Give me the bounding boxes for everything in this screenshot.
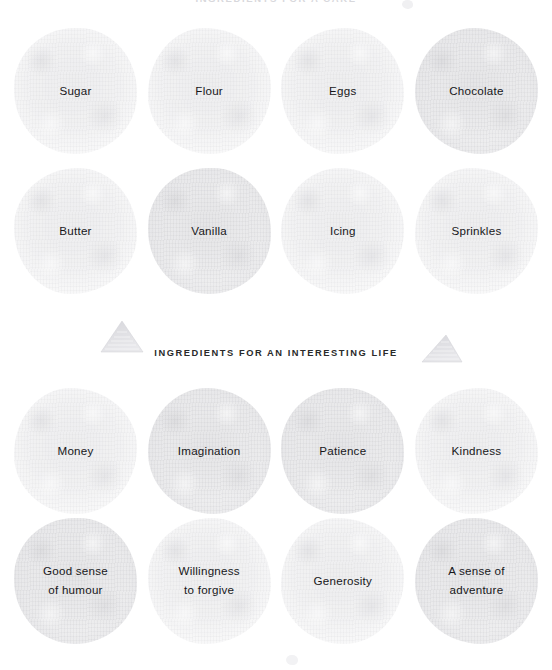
ingredient-label: Good sense of humour bbox=[43, 562, 108, 600]
ingredient-blob[interactable]: Sprinkles bbox=[415, 168, 538, 294]
ingredient-label: Flour bbox=[195, 82, 223, 101]
ingredient-blob[interactable]: Imagination bbox=[148, 388, 271, 514]
ingredient-label: Willingness to forgive bbox=[178, 562, 239, 600]
ingredient-label: Money bbox=[57, 442, 93, 461]
ingredient-blob[interactable]: A sense of adventure bbox=[415, 518, 538, 644]
ingredient-blob[interactable]: Good sense of humour bbox=[14, 518, 137, 644]
ingredient-label: A sense of adventure bbox=[448, 562, 505, 600]
ingredient-grid-row-4: Good sense of humour Willingness to forg… bbox=[0, 518, 552, 644]
ingredient-label: Chocolate bbox=[449, 82, 503, 101]
ingredient-blob[interactable]: Sugar bbox=[14, 28, 137, 154]
ingredient-label: Kindness bbox=[452, 442, 502, 461]
ingredient-blob[interactable]: Icing bbox=[281, 168, 404, 294]
ingredient-label: Icing bbox=[330, 222, 356, 241]
ingredient-grid-row-3: Money Imagination Patience Kindness bbox=[0, 388, 552, 514]
ingredient-label: Imagination bbox=[178, 442, 241, 461]
ingredient-blob[interactable]: Vanilla bbox=[148, 168, 271, 294]
top-section-heading: INGREDIENTS FOR A CAKE bbox=[0, 0, 552, 4]
ingredient-blob[interactable]: Kindness bbox=[415, 388, 538, 514]
ingredient-grid-row-1: Sugar Flour Eggs Chocolate bbox=[0, 28, 552, 154]
ingredient-grid-row-2: Butter Vanilla Icing Sprinkles bbox=[0, 168, 552, 294]
ingredient-blob[interactable]: Patience bbox=[281, 388, 404, 514]
ingredient-label: Generosity bbox=[314, 572, 373, 591]
ingredient-blob[interactable]: Willingness to forgive bbox=[148, 518, 271, 644]
ingredient-label: Sugar bbox=[59, 82, 91, 101]
ingredient-label: Butter bbox=[59, 222, 91, 241]
ingredient-blob[interactable]: Butter bbox=[14, 168, 137, 294]
ingredient-label: Eggs bbox=[329, 82, 356, 101]
ingredient-blob[interactable]: Eggs bbox=[281, 28, 404, 154]
pencil-speck-icon bbox=[402, 0, 413, 9]
pencil-triangle-icon bbox=[420, 333, 464, 365]
ingredient-blob[interactable]: Money bbox=[14, 388, 137, 514]
ingredient-blob[interactable]: Flour bbox=[148, 28, 271, 154]
section-heading-life: INGREDIENTS FOR AN INTERESTING LIFE bbox=[0, 348, 552, 358]
poster-canvas: INGREDIENTS FOR A CAKE Sugar Flour Eggs … bbox=[0, 0, 552, 670]
ingredient-label: Patience bbox=[319, 442, 366, 461]
pencil-speck-icon bbox=[286, 655, 298, 665]
ingredient-label: Vanilla bbox=[191, 222, 227, 241]
ingredient-blob[interactable]: Generosity bbox=[281, 518, 404, 644]
ingredient-label: Sprinkles bbox=[452, 222, 502, 241]
ingredient-blob[interactable]: Chocolate bbox=[415, 28, 538, 154]
section-divider: INGREDIENTS FOR AN INTERESTING LIFE bbox=[0, 320, 552, 380]
